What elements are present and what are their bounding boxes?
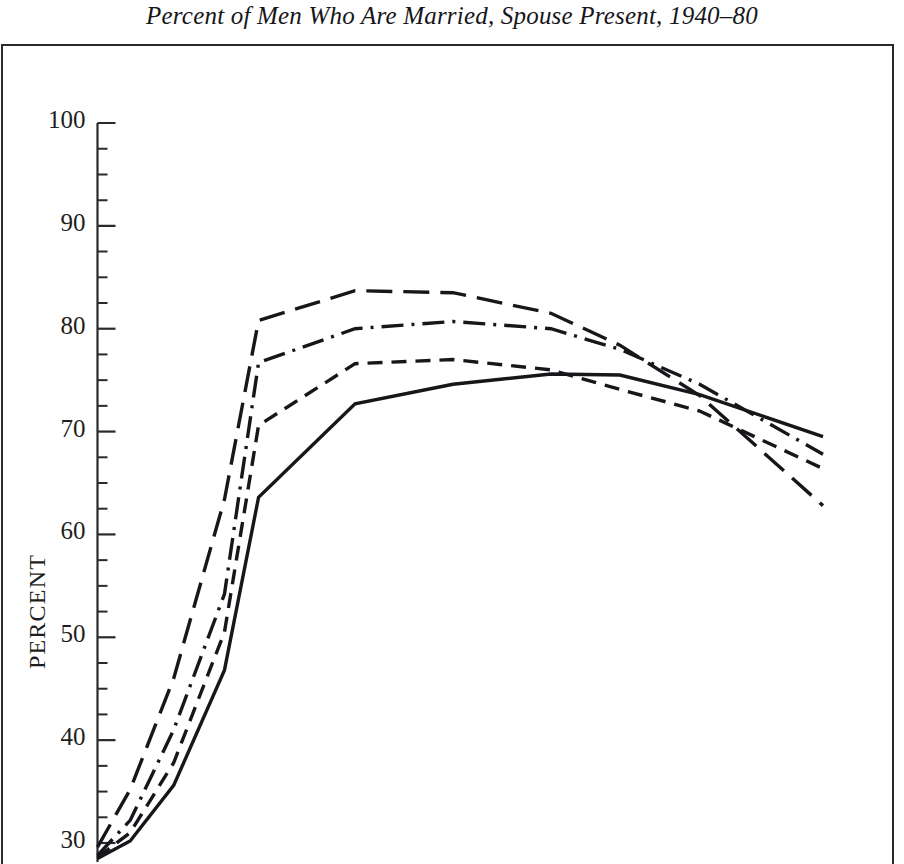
series-long-dash [98, 291, 824, 847]
y-tick-label: 60 [16, 517, 86, 545]
y-tick-label: 80 [16, 312, 86, 340]
series-dash-dot [98, 322, 824, 856]
y-tick-label: 30 [16, 826, 86, 854]
y-axis [98, 123, 116, 862]
y-tick-label: 70 [16, 415, 86, 443]
series-short-dash [98, 360, 824, 858]
y-tick-label: 50 [16, 620, 86, 648]
y-tick-label: 40 [16, 723, 86, 751]
y-tick-label: 100 [16, 106, 86, 134]
y-tick-label: 90 [16, 209, 86, 237]
series-solid [98, 374, 824, 858]
series-lines [98, 291, 824, 859]
